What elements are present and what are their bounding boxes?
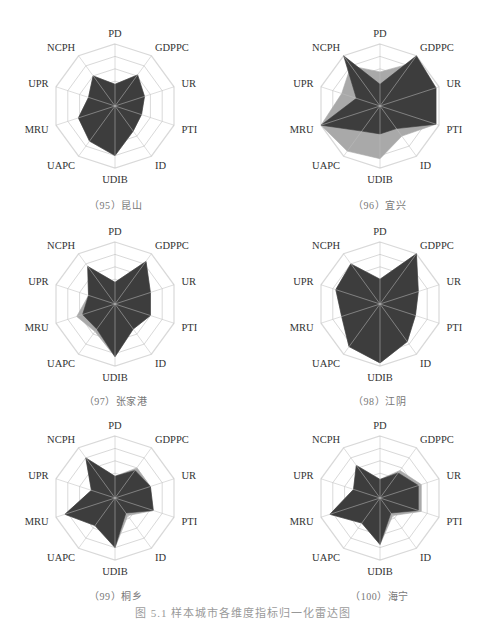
axis-label-gdppc: GDPPC [155,240,189,251]
axis-label-mru: MRU [25,322,49,333]
axis-label-ur: UR [446,470,461,481]
axis-label-gdppc: GDPPC [155,434,189,445]
axis-label-ur: UR [446,78,461,89]
axis-label-mru: MRU [290,516,314,527]
subcaption-99: （99）桐乡 [0,588,237,603]
axis-label-mru: MRU [290,124,314,135]
axis-label-uapc: UAPC [47,358,75,369]
series-dark-polygon [321,56,436,134]
axis-label-id: ID [420,160,431,171]
axis-label-mru: MRU [25,124,49,135]
radar-panel-96: PDGDPPCURPTIIDUDIBUAPCMRUUPRNCPH [243,0,486,200]
axis-label-udib: UDIB [102,566,128,577]
axis-label-ur: UR [446,276,461,287]
subcaption-100: （100）海宁 [258,588,486,603]
axis-label-pd: PD [373,226,387,237]
series-dark-polygon [65,458,153,548]
radar-panel-98: PDGDPPCURPTIIDUDIBUAPCMRUUPRNCPH [243,200,486,400]
radar-chart-95: PDGDPPCURPTIIDUDIBUAPCMRUUPRNCPH [0,0,243,200]
axis-label-ur: UR [181,276,196,287]
radar-chart-99: PDGDPPCURPTIIDUDIBUAPCMRUUPRNCPH [0,400,243,600]
axis-label-pti: PTI [181,516,197,527]
radar-panel-99: PDGDPPCURPTIIDUDIBUAPCMRUUPRNCPH [0,400,243,600]
axis-label-upr: UPR [28,470,48,481]
axis-label-upr: UPR [293,78,313,89]
axis-label-ur: UR [181,470,196,481]
axis-label-uapc: UAPC [312,552,340,563]
series-dark-polygon [83,261,151,356]
axis-label-upr: UPR [28,276,48,287]
axis-label-upr: UPR [293,276,313,287]
axis-label-id: ID [155,160,166,171]
axis-label-ncph: NCPH [312,434,340,445]
axis-label-udib: UDIB [367,566,393,577]
radar-chart-97: PDGDPPCURPTIIDUDIBUAPCMRUUPRNCPH [0,200,243,400]
axis-label-pd: PD [373,420,387,431]
axis-label-uapc: UAPC [47,160,75,171]
axis-label-udib: UDIB [102,372,128,383]
series-dark-polygon [78,75,144,156]
axis-label-pti: PTI [446,516,462,527]
axis-label-pd: PD [373,28,387,39]
axis-label-udib: UDIB [367,174,393,185]
axis-label-gdppc: GDPPC [420,434,454,445]
radar-chart-98: PDGDPPCURPTIIDUDIBUAPCMRUUPRNCPH [243,200,486,400]
axis-label-udib: UDIB [367,372,393,383]
axis-label-ncph: NCPH [47,240,75,251]
axis-label-upr: UPR [293,470,313,481]
axis-label-ncph: NCPH [47,42,75,53]
figure-caption: 图 5.1 样本城市各维度指标归一化雷达图 [0,604,486,619]
axis-label-pd: PD [108,28,122,39]
axis-label-gdppc: GDPPC [420,240,454,251]
axis-label-gdppc: GDPPC [155,42,189,53]
axis-label-pti: PTI [181,124,197,135]
radar-chart-96: PDGDPPCURPTIIDUDIBUAPCMRUUPRNCPH [243,0,486,200]
axis-label-ncph: NCPH [312,240,340,251]
axis-label-ncph: NCPH [47,434,75,445]
axis-label-pti: PTI [446,124,462,135]
axis-label-pti: PTI [181,322,197,333]
radar-panel-100: PDGDPPCURPTIIDUDIBUAPCMRUUPRNCPH [243,400,486,600]
axis-label-gdppc: GDPPC [420,42,454,53]
radar-chart-100: PDGDPPCURPTIIDUDIBUAPCMRUUPRNCPH [243,400,486,600]
axis-label-id: ID [420,358,431,369]
axis-label-mru: MRU [290,322,314,333]
axis-label-id: ID [420,552,431,563]
axis-label-uapc: UAPC [47,552,75,563]
axis-label-id: ID [155,552,166,563]
axis-label-ncph: NCPH [312,42,340,53]
axis-label-pti: PTI [446,322,462,333]
axis-label-upr: UPR [28,78,48,89]
axis-label-pd: PD [108,420,122,431]
axis-label-ur: UR [181,78,196,89]
axis-label-id: ID [155,358,166,369]
axis-label-mru: MRU [25,516,49,527]
axis-label-uapc: UAPC [312,358,340,369]
axis-label-udib: UDIB [102,174,128,185]
radar-panel-95: PDGDPPCURPTIIDUDIBUAPCMRUUPRNCPH [0,0,243,200]
axis-label-uapc: UAPC [312,160,340,171]
radar-panel-97: PDGDPPCURPTIIDUDIBUAPCMRUUPRNCPH [0,200,243,400]
axis-label-pd: PD [108,226,122,237]
